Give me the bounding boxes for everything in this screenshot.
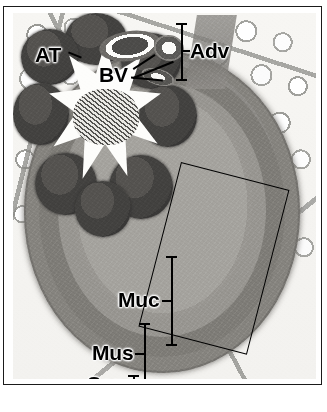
micrograph-image: AT BV Adv Muc Mus [13, 13, 316, 379]
figure-frame: AT BV Adv Muc Mus [3, 6, 322, 385]
label-bv-leader-3 [131, 77, 163, 81]
region-of-interest-box [138, 162, 289, 355]
label-adv-bracket [181, 23, 183, 81]
label-bv-leader-1 [133, 54, 156, 69]
figure-page: AT BV Adv Muc Mus [0, 0, 327, 412]
label-adv-bracket-top-cap [176, 23, 187, 25]
annotation-layer: AT BV Adv Muc Mus [13, 13, 316, 379]
label-mus: Mus [92, 341, 133, 365]
label-at-leader [68, 51, 82, 58]
label-adv: Adv [190, 39, 229, 63]
label-adv-tick [181, 50, 190, 52]
label-muc-bracket-bottom-cap [166, 344, 177, 346]
label-at: AT [35, 43, 61, 67]
label-adv-bracket-bottom-cap [176, 79, 187, 81]
label-mus-bracket [144, 323, 146, 379]
label-ser: Ser [87, 372, 120, 379]
label-ser-bracket-top-cap [128, 375, 139, 377]
label-bv: BV [99, 63, 128, 87]
